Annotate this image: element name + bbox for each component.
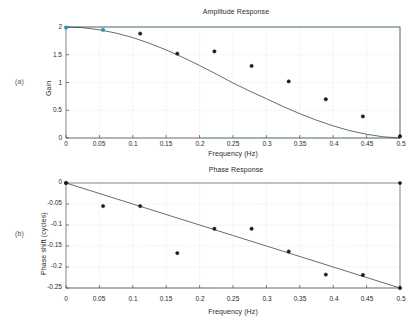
amplitude-marker-6 <box>287 80 290 83</box>
phase-marker-4 <box>213 227 216 230</box>
phase-marker-1 <box>101 204 104 207</box>
amplitude-marker-5 <box>250 64 253 67</box>
phase-top-marker-1 <box>398 181 401 184</box>
amplitude-plot-area <box>0 0 419 162</box>
panel-amplitude-response: (a) Amplitude Response Gain Frequency (H… <box>0 0 419 162</box>
amplitude-marker-4 <box>213 50 216 53</box>
panel-phase-response: (b) Phase Response Phase shift (cycles) … <box>0 162 419 323</box>
phase-marker-3 <box>176 251 179 254</box>
phase-plot-area <box>0 162 419 323</box>
amplitude-gridlines-horizontal <box>66 55 400 111</box>
amplitude-marker-2 <box>139 32 142 35</box>
phase-marker-2 <box>139 204 142 207</box>
amplitude-marker-7 <box>324 98 327 101</box>
amplitude-marker-1 <box>101 28 105 32</box>
phase-top-marker-0 <box>64 181 67 184</box>
phase-marker-5 <box>250 227 253 230</box>
amplitude-marker-3 <box>176 52 179 55</box>
amplitude-marker-8 <box>361 115 364 118</box>
phase-marker-8 <box>361 273 364 276</box>
figure-canvas: (a) Amplitude Response Gain Frequency (H… <box>0 0 419 323</box>
phase-marker-7 <box>324 273 327 276</box>
phase-marker-9 <box>398 286 401 289</box>
phase-marker-6 <box>287 250 290 253</box>
amplitude-marker-9 <box>398 135 401 138</box>
amplitude-marker-0 <box>64 26 68 30</box>
